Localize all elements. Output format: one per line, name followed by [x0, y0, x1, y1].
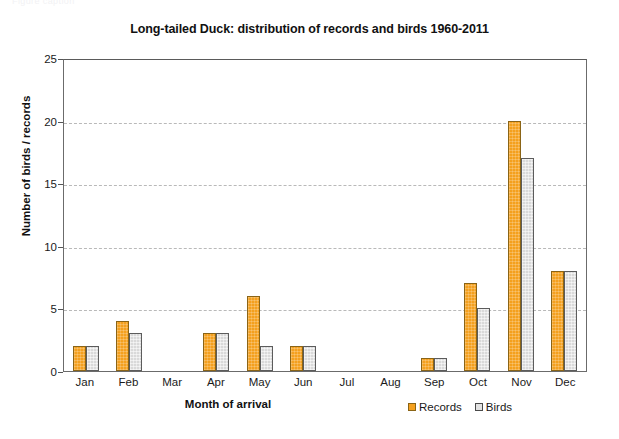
y-tick-label-0: 0: [21, 366, 57, 378]
bar-dec-birds: [564, 271, 577, 371]
bar-group-may: [238, 60, 282, 371]
y-tick-label-5: 5: [21, 303, 57, 315]
chart-legend: RecordsBirds: [408, 401, 512, 413]
bar-group-jul: [325, 60, 369, 371]
bar-group-jun: [282, 60, 326, 371]
legend-swatch-birds-icon: [475, 403, 483, 411]
bar-oct-records: [464, 283, 477, 371]
scan-header-artifact: Figure caption: [12, 0, 75, 6]
x-axis-title: Month of arrival: [63, 398, 393, 410]
bar-feb-records: [116, 321, 129, 371]
bar-may-birds: [260, 346, 273, 371]
x-tick-label-aug: Aug: [369, 376, 413, 396]
bar-apr-birds: [216, 333, 229, 371]
bar-oct-birds: [477, 308, 490, 371]
x-tick-label-dec: Dec: [543, 376, 587, 396]
bar-feb-birds: [129, 333, 142, 371]
bar-nov-records: [508, 121, 521, 371]
bar-group-feb: [108, 60, 152, 371]
x-tick-label-feb: Feb: [107, 376, 151, 396]
x-tick-label-jul: Jul: [325, 376, 369, 396]
bar-jan-records: [73, 346, 86, 371]
chart-title: Long-tailed Duck: distribution of record…: [0, 22, 619, 36]
bar-group-apr: [195, 60, 239, 371]
legend-label-records: Records: [419, 401, 462, 413]
bars-layer: [64, 60, 586, 371]
y-tick-label-10: 10: [21, 241, 57, 253]
x-tick-label-oct: Oct: [456, 376, 500, 396]
x-tick-label-nov: Nov: [500, 376, 544, 396]
bar-jan-birds: [86, 346, 99, 371]
plot-area: [63, 59, 587, 372]
y-tick-mark-0: [58, 372, 63, 373]
x-tick-label-may: May: [238, 376, 282, 396]
x-tick-label-jun: Jun: [281, 376, 325, 396]
bar-group-mar: [151, 60, 195, 371]
bar-jun-records: [290, 346, 303, 371]
legend-swatch-records-icon: [408, 403, 416, 411]
bar-group-aug: [369, 60, 413, 371]
bar-group-oct: [456, 60, 500, 371]
x-tick-label-jan: Jan: [63, 376, 107, 396]
x-tick-label-apr: Apr: [194, 376, 238, 396]
bar-group-sep: [412, 60, 456, 371]
legend-label-birds: Birds: [486, 401, 512, 413]
x-tick-label-sep: Sep: [412, 376, 456, 396]
bar-group-nov: [499, 60, 543, 371]
y-tick-label-15: 15: [21, 178, 57, 190]
bar-may-records: [247, 296, 260, 371]
bar-jun-birds: [303, 346, 316, 371]
legend-item-records[interactable]: Records: [408, 401, 462, 413]
y-axis-title: Number of birds / records: [20, 76, 32, 256]
legend-item-birds[interactable]: Birds: [475, 401, 512, 413]
bar-group-dec: [543, 60, 587, 371]
bar-nov-birds: [521, 158, 534, 371]
y-tick-label-20: 20: [21, 116, 57, 128]
y-tick-label-25: 25: [21, 53, 57, 65]
bar-sep-records: [421, 358, 434, 371]
bar-apr-records: [203, 333, 216, 371]
x-axis-labels: JanFebMarAprMayJunJulAugSepOctNovDec: [63, 376, 587, 396]
bar-sep-birds: [434, 358, 447, 371]
bar-dec-records: [551, 271, 564, 371]
x-tick-label-mar: Mar: [150, 376, 194, 396]
bar-group-jan: [64, 60, 108, 371]
